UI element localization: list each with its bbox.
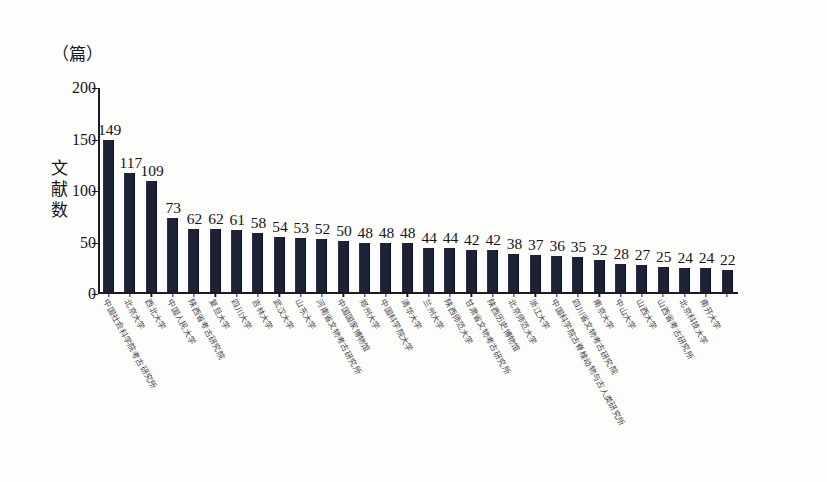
bar-value-label: 36 <box>549 237 565 255</box>
bar <box>700 268 711 292</box>
bar <box>188 229 199 292</box>
bar-slot: 58 <box>247 88 268 292</box>
bar <box>316 239 327 292</box>
bar-slot: 117 <box>119 88 140 292</box>
bar-slot: 27 <box>631 88 652 292</box>
bar-value-label: 27 <box>635 246 651 264</box>
bar <box>508 254 519 293</box>
bar-slot: 24 <box>674 88 695 292</box>
bar-slot: 32 <box>589 88 610 292</box>
bar-value-label: 48 <box>357 224 373 242</box>
bar-value-label: 32 <box>592 241 608 259</box>
bar-slot: 62 <box>205 88 226 292</box>
y-tick-label: 100 <box>72 182 96 200</box>
bar <box>274 237 285 292</box>
bar-value-label: 62 <box>187 210 203 228</box>
bar-slot: 54 <box>269 88 290 292</box>
bar-value-label: 117 <box>120 154 143 172</box>
bar <box>359 243 370 292</box>
bar-value-label: 109 <box>141 162 164 180</box>
bar-value-label: 38 <box>507 235 523 253</box>
bar <box>594 260 605 293</box>
bar <box>338 241 349 292</box>
bar-slot: 61 <box>226 88 247 292</box>
bar-slot: 109 <box>141 88 162 292</box>
bar-value-label: 28 <box>613 245 629 263</box>
bar-value-label: 24 <box>699 249 715 267</box>
bar <box>146 181 157 292</box>
y-tick-label: 0 <box>88 285 96 303</box>
bar <box>572 257 583 293</box>
bar-value-label: 48 <box>379 224 395 242</box>
bar-value-label: 58 <box>251 214 267 232</box>
y-axis-title-char-3: 数 <box>48 200 70 221</box>
bar-slot: 36 <box>546 88 567 292</box>
bar-value-label: 50 <box>336 222 352 240</box>
y-tick-label: 50 <box>80 234 96 252</box>
y-tick-label: 200 <box>72 79 96 97</box>
bar-value-label: 62 <box>208 210 224 228</box>
bar-value-label: 53 <box>293 219 309 237</box>
bar-slot: 24 <box>695 88 716 292</box>
bar <box>444 248 455 293</box>
bar-value-label: 73 <box>166 199 182 217</box>
bar-value-label: 149 <box>98 121 121 139</box>
bar-value-label: 25 <box>656 248 672 266</box>
bar <box>551 256 562 293</box>
bar <box>530 255 541 293</box>
y-axis-title-char-2: 献 <box>48 179 70 200</box>
bar-value-label: 24 <box>677 249 693 267</box>
bar-slot: 48 <box>397 88 418 292</box>
bar-slot: 48 <box>375 88 396 292</box>
bar <box>167 218 178 292</box>
bar <box>466 250 477 293</box>
plot-area: 050100150200 149117109736262615854535250… <box>98 88 738 294</box>
bar-slot: 44 <box>439 88 460 292</box>
bar-slot: 35 <box>567 88 588 292</box>
bar <box>487 250 498 293</box>
bar-slot: 22 <box>717 88 738 292</box>
bar-slot: 73 <box>162 88 183 292</box>
bar-series: 1491171097362626158545352504848484444424… <box>98 88 738 292</box>
bar-slot: 62 <box>183 88 204 292</box>
bar-slot: 50 <box>333 88 354 292</box>
bar-slot: 48 <box>354 88 375 292</box>
bar-slot: 52 <box>311 88 332 292</box>
bar-slot: 42 <box>482 88 503 292</box>
bar-slot: 149 <box>98 88 119 292</box>
bar-value-label: 37 <box>528 236 544 254</box>
bar <box>124 173 135 292</box>
y-axis-title-char-1: 文 <box>48 158 70 179</box>
bar <box>380 243 391 292</box>
bar-slot: 53 <box>290 88 311 292</box>
unit-label: （篇） <box>52 40 103 65</box>
bar-value-label: 42 <box>485 231 501 249</box>
y-tick-label: 150 <box>72 131 96 149</box>
bar <box>103 140 114 292</box>
bar <box>231 230 242 292</box>
bar <box>210 229 221 292</box>
bar-value-label: 61 <box>229 211 245 229</box>
bar-chart: （篇） 文 献 数 050100150200 14911710973626261… <box>0 0 827 482</box>
bar-value-label: 52 <box>315 220 331 238</box>
bar <box>402 243 413 292</box>
bar-slot: 25 <box>653 88 674 292</box>
bar-slot: 44 <box>418 88 439 292</box>
bar-slot: 42 <box>461 88 482 292</box>
bar <box>722 270 733 292</box>
bar-value-label: 44 <box>421 229 437 247</box>
bar-value-label: 48 <box>400 224 416 242</box>
bar-slot: 38 <box>503 88 524 292</box>
bar-value-label: 54 <box>272 218 288 236</box>
bar <box>615 264 626 293</box>
bar-slot: 28 <box>610 88 631 292</box>
bar-slot: 37 <box>525 88 546 292</box>
y-axis-title: 文 献 数 <box>48 158 70 221</box>
bar <box>423 248 434 293</box>
bar <box>295 238 306 292</box>
bar <box>252 233 263 292</box>
bar-value-label: 35 <box>571 238 587 256</box>
bar-value-label: 22 <box>720 251 736 269</box>
bar <box>679 268 690 292</box>
bar-value-label: 44 <box>443 229 459 247</box>
